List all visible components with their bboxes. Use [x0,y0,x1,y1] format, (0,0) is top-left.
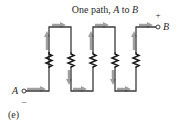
terminal-b-label: B [163,21,169,32]
terminal-b-polarity: + [155,10,160,20]
series-circuit-diagram: One path, A to B [0,0,186,128]
terminal-b-icon [156,25,160,29]
resistor-5 [133,52,139,68]
figure-caption: (e) [8,109,19,121]
terminal-a-label: A [11,85,19,96]
resistors [46,52,139,68]
terminal-a-icon [22,89,26,93]
resistor-3 [90,52,96,68]
resistor-4 [112,52,118,68]
resistor-2 [68,52,74,68]
terminal-a-polarity: – [21,96,27,106]
diagram-title: One path, A to B [72,4,138,15]
